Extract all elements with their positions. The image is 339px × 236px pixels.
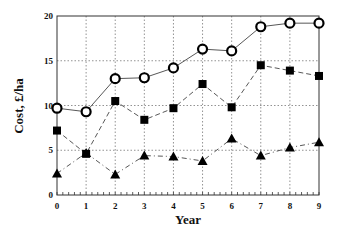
square-marker (257, 61, 265, 69)
series-square-filled (53, 61, 323, 158)
y-tick-label: 15 (44, 56, 54, 66)
y-tick-label: 20 (44, 11, 54, 21)
triangle-marker (256, 151, 266, 160)
x-tick-label: 7 (259, 201, 264, 211)
triangle-marker (314, 137, 324, 146)
square-marker (53, 127, 61, 135)
y-tick-label: 0 (49, 190, 54, 200)
x-tick-label: 2 (113, 201, 118, 211)
x-tick-label: 4 (171, 201, 176, 211)
square-marker (315, 72, 323, 80)
series-line (57, 65, 319, 154)
square-marker (228, 103, 236, 111)
triangle-marker (198, 156, 208, 165)
x-tick-label: 1 (84, 201, 89, 211)
circle-marker (285, 19, 294, 28)
circle-marker (315, 19, 324, 28)
circle-marker (140, 73, 149, 82)
square-marker (169, 104, 177, 112)
circle-marker (227, 46, 236, 55)
circle-marker (53, 104, 62, 113)
x-tick-labels: 0123456789 (55, 201, 322, 211)
x-tick-label: 9 (317, 201, 322, 211)
triangle-marker (227, 134, 237, 143)
circle-marker (169, 63, 178, 72)
square-marker (111, 97, 119, 105)
x-tick-label: 3 (142, 201, 147, 211)
series-triangle-filled (52, 134, 324, 179)
triangle-marker (110, 169, 120, 178)
x-tick-label: 0 (55, 201, 60, 211)
series-circle-open (53, 19, 324, 117)
circle-marker (111, 74, 120, 83)
y-tick-label: 5 (49, 145, 54, 155)
y-axis-title: Cost, £/ha (11, 78, 26, 134)
x-tick-label: 5 (200, 201, 205, 211)
square-marker (286, 67, 294, 75)
series-layer (52, 19, 324, 179)
x-axis-title: Year (175, 212, 201, 227)
triangle-marker (285, 143, 295, 152)
circle-marker (256, 22, 265, 31)
x-tick-label: 6 (229, 201, 234, 211)
x-tick-label: 8 (288, 201, 293, 211)
square-marker (140, 116, 148, 124)
line-chart: 0123456789 05101520 Year Cost, £/ha (0, 0, 339, 236)
series-line (57, 23, 319, 112)
y-tick-labels: 05101520 (44, 11, 54, 200)
square-marker (199, 80, 207, 88)
triangle-marker (52, 169, 62, 178)
grid-lines (57, 16, 319, 195)
circle-marker (82, 107, 91, 116)
series-line (57, 139, 319, 175)
circle-marker (198, 45, 207, 54)
triangle-marker (139, 151, 149, 160)
